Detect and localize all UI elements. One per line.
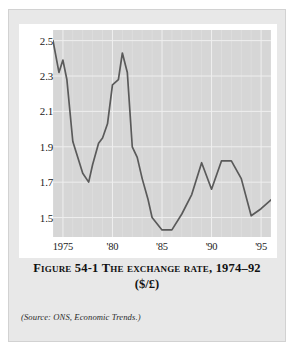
chart-area: 2.52.32.11.91.71.5 1975'80'85'90'95 bbox=[19, 24, 277, 258]
y-tick-label: 2.1 bbox=[23, 105, 53, 117]
exchange-rate-line-chart bbox=[53, 30, 271, 237]
x-tick-label: '95 bbox=[255, 241, 267, 252]
x-axis-tick-labels: 1975'80'85'90'95 bbox=[19, 241, 277, 257]
y-tick-label: 1.9 bbox=[23, 141, 53, 153]
y-axis-tick-labels: 2.52.32.11.91.71.5 bbox=[19, 24, 53, 258]
caption-units: ($/£) bbox=[9, 276, 285, 293]
caption-title: Figure 54-1 The exchange rate, 1974–92 bbox=[9, 260, 285, 276]
plot-region bbox=[53, 30, 271, 237]
source-note: (Source: ONS, Economic Trends.) bbox=[21, 312, 141, 322]
y-tick-label: 2.5 bbox=[23, 35, 53, 47]
y-tick-label: 1.5 bbox=[23, 212, 53, 224]
figure-card: 2.52.32.11.91.71.5 1975'80'85'90'95 Figu… bbox=[8, 9, 286, 342]
x-tick-label: '85 bbox=[156, 241, 168, 252]
figure-caption: Figure 54-1 The exchange rate, 1974–92 (… bbox=[9, 260, 285, 293]
y-tick-label: 2.3 bbox=[23, 70, 53, 82]
y-tick-label: 1.7 bbox=[23, 176, 53, 188]
x-tick-label: '90 bbox=[206, 241, 218, 252]
x-tick-label: '80 bbox=[107, 241, 119, 252]
x-tick-label: 1975 bbox=[53, 241, 73, 252]
